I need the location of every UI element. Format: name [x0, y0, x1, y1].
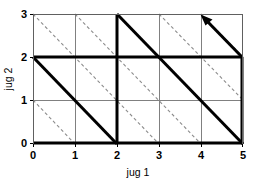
x-tick-label-0: 0 [30, 149, 36, 161]
y-tick-label-3: 3 [21, 8, 27, 20]
x-tick-label-1: 1 [72, 149, 78, 161]
y-axis-title: jug 2 [2, 67, 14, 91]
y-tick-label-2: 2 [21, 51, 27, 63]
x-tick-label-2: 2 [114, 149, 120, 161]
x-tick-label-3: 3 [156, 149, 162, 161]
x-axis-title: jug 1 [126, 166, 150, 178]
y-tick-label-1: 1 [21, 94, 27, 106]
jug-problem-state-space-plot: 0 1 2 3 4 5 0 1 2 3 jug 1 jug 2 [0, 0, 256, 182]
x-tick-label-5: 5 [240, 149, 246, 161]
x-tick-label-4: 4 [198, 149, 205, 161]
plot-area-background [33, 14, 243, 144]
y-tick-label-0: 0 [21, 137, 27, 149]
